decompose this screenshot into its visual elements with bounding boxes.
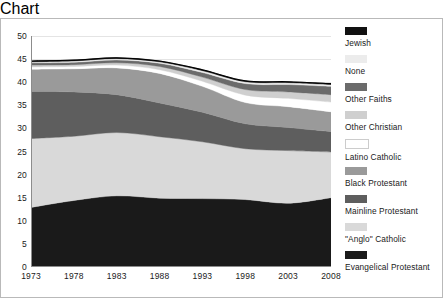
y-axis-line — [31, 36, 32, 267]
y-axis-tick-labels: 05101520253035404550 — [1, 36, 27, 267]
legend-label: Latino Catholic — [345, 152, 401, 162]
legend-item[interactable]: None — [345, 55, 443, 76]
legend-item[interactable]: Other Christian — [345, 111, 443, 132]
chart-legend: JewishNoneOther FaithsOther ChristianLat… — [345, 27, 443, 279]
x-axis-line — [31, 266, 331, 267]
legend-item[interactable]: Latino Catholic — [345, 139, 443, 162]
legend-swatch-icon — [345, 195, 367, 203]
area-band — [31, 196, 331, 267]
y-tick-label: 20 — [17, 170, 27, 180]
y-tick-label: 40 — [17, 77, 27, 87]
legend-label: Black Protestant — [345, 178, 407, 188]
legend-label: Other Christian — [345, 122, 402, 132]
legend-item[interactable]: Other Faiths — [345, 83, 443, 104]
x-tick-label: 1973 — [21, 271, 41, 281]
legend-label: None — [345, 66, 365, 76]
legend-swatch-icon — [345, 27, 367, 35]
y-tick-label: 15 — [17, 193, 27, 203]
legend-swatch-icon — [345, 83, 367, 91]
x-tick-label: 1993 — [193, 271, 213, 281]
legend-item[interactable]: Jewish — [345, 27, 443, 48]
legend-item[interactable]: Mainline Protestant — [345, 195, 443, 216]
y-tick-label: 5 — [22, 239, 27, 249]
x-axis-tick-labels: 19731978198319881993199820032008 — [31, 271, 331, 285]
x-tick-label: 2003 — [278, 271, 298, 281]
legend-swatch-icon — [345, 167, 367, 175]
x-tick-label: 1998 — [235, 271, 255, 281]
x-tick-label: 1988 — [150, 271, 170, 281]
y-tick-label: 25 — [17, 147, 27, 157]
legend-swatch-icon — [345, 55, 367, 63]
x-tick-label: 1978 — [64, 271, 84, 281]
legend-label: Jewish — [345, 38, 371, 48]
legend-swatch-icon — [345, 223, 367, 231]
y-tick-label: 50 — [17, 31, 27, 41]
legend-swatch-icon — [345, 251, 367, 259]
x-tick-label: 2008 — [321, 271, 341, 281]
chart-frame: 05101520253035404550 1973197819831988199… — [0, 18, 443, 298]
y-tick-label: 30 — [17, 123, 27, 133]
legend-swatch-icon — [345, 111, 367, 119]
y-tick-label: 35 — [17, 100, 27, 110]
legend-item[interactable]: Black Protestant — [345, 167, 443, 188]
legend-label: Evangelical Protestant — [345, 262, 430, 272]
plot-area — [31, 36, 331, 267]
x-tick-label: 1983 — [107, 271, 127, 281]
legend-item[interactable]: "Anglo" Catholic — [345, 223, 443, 244]
stacked-area-series — [31, 36, 331, 267]
y-tick-label: 10 — [17, 216, 27, 226]
legend-label: Other Faiths — [345, 94, 392, 104]
legend-label: Mainline Protestant — [345, 206, 418, 216]
y-tick-label: 45 — [17, 54, 27, 64]
legend-swatch-icon — [345, 139, 369, 149]
legend-item[interactable]: Evangelical Protestant — [345, 251, 443, 272]
legend-label: "Anglo" Catholic — [345, 234, 406, 244]
